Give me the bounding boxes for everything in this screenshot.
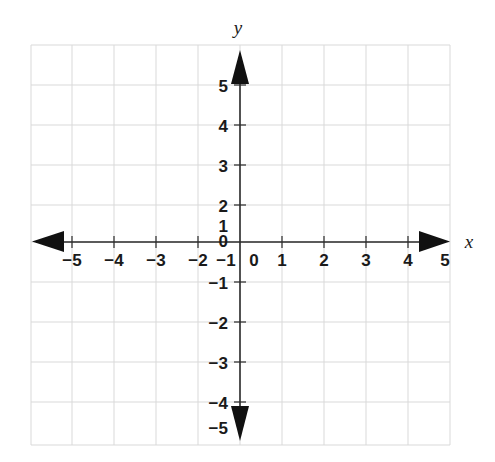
y-tick-label-pos4: 4 — [219, 117, 229, 136]
x-tick-label-zero: 0 — [249, 251, 258, 270]
figure-background — [0, 0, 495, 462]
x-tick-label-pos2: 2 — [319, 251, 328, 270]
x-tick-label-neg5: −5 — [62, 251, 81, 270]
y-tick-label-neg1: −1 — [209, 274, 228, 293]
coordinate-plane-figure: −5 −4 −3 −2 −1 0 1 2 3 4 5 5 4 3 2 1 0 −… — [0, 0, 495, 462]
y-tick-label-zero: 0 — [219, 232, 228, 251]
x-tick-label-neg3: −3 — [146, 251, 165, 270]
x-tick-label-pos3: 3 — [361, 251, 370, 270]
y-axis-label: y — [232, 17, 243, 38]
x-tick-label-pos1: 1 — [277, 251, 286, 270]
y-tick-label-neg3: −3 — [209, 354, 228, 373]
x-tick-label-neg4: −4 — [104, 251, 124, 270]
y-tick-label-neg2: −2 — [209, 314, 228, 333]
x-tick-label-pos5: 5 — [440, 251, 449, 270]
coordinate-plane-svg: −5 −4 −3 −2 −1 0 1 2 3 4 5 5 4 3 2 1 0 −… — [0, 0, 495, 462]
x-tick-label-neg1: −1 — [216, 251, 235, 270]
y-tick-label-neg5: −5 — [209, 419, 228, 438]
y-tick-label-neg4: −4 — [209, 394, 229, 413]
x-axis-label: x — [464, 231, 474, 252]
y-tick-label-pos2: 2 — [219, 197, 228, 216]
x-tick-label-neg2: −2 — [188, 251, 207, 270]
y-tick-label-pos3: 3 — [219, 157, 228, 176]
x-tick-label-pos4: 4 — [403, 251, 413, 270]
y-tick-label-pos5: 5 — [219, 77, 228, 96]
